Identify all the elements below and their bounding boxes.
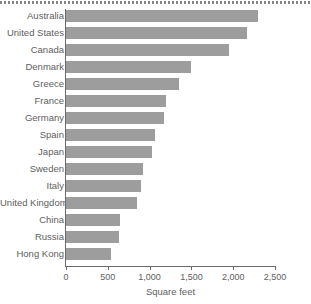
bar-row: Denmark (0, 60, 311, 77)
bar-row: France (0, 94, 311, 111)
x-axis-tick (108, 266, 109, 270)
x-axis-tick-label: 1,000 (138, 272, 161, 282)
bar (66, 180, 141, 192)
bar (66, 112, 164, 124)
bar (66, 61, 191, 73)
x-axis-tick-label: 1,500 (180, 272, 203, 282)
bar-track (66, 27, 247, 39)
bar-row: Canada (0, 43, 311, 60)
bar-track (66, 163, 143, 175)
x-axis-tick-label: 2,500 (264, 272, 287, 282)
bar-row: United States (0, 26, 311, 43)
bar-track (66, 146, 152, 158)
category-label: United States (0, 26, 64, 39)
bar-row: United Kingdom (0, 196, 311, 213)
x-axis-tick (191, 266, 192, 270)
bar-track (66, 180, 141, 192)
bar (66, 129, 155, 141)
bar-row: Germany (0, 111, 311, 128)
x-axis-tick (66, 266, 67, 270)
bar-row: Italy (0, 179, 311, 196)
bar-row: Japan (0, 145, 311, 162)
category-label: Australia (0, 9, 64, 22)
category-label: China (0, 213, 64, 226)
bar (66, 10, 258, 22)
bar-track (66, 248, 111, 260)
x-axis-tick (150, 266, 151, 270)
bar-row: China (0, 213, 311, 230)
bar (66, 146, 152, 158)
category-label: United Kingdom (0, 196, 64, 209)
x-axis-tick-label: 0 (63, 272, 68, 282)
bar-track (66, 95, 166, 107)
category-label: France (0, 94, 64, 107)
x-axis-tick-label: 2,000 (222, 272, 245, 282)
category-label: Japan (0, 145, 64, 158)
bar-row: Hong Kong (0, 247, 311, 264)
category-label: Italy (0, 179, 64, 192)
bar-track (66, 112, 164, 124)
bar-chart-figure: AustraliaUnited StatesCanadaDenmarkGreec… (0, 0, 311, 304)
category-label: Greece (0, 77, 64, 90)
category-label: Hong Kong (0, 247, 64, 260)
bar-row: Australia (0, 9, 311, 26)
bar-track (66, 44, 229, 56)
x-axis-tick (233, 266, 234, 270)
category-axis-line (65, 9, 66, 266)
bar (66, 248, 111, 260)
bar (66, 231, 119, 243)
category-label: Spain (0, 128, 64, 141)
bar-row: Spain (0, 128, 311, 145)
value-axis-line (65, 266, 275, 267)
bar (66, 78, 179, 90)
bar-track (66, 10, 258, 22)
top-divider-rule (0, 1, 311, 4)
bar (66, 27, 247, 39)
category-label: Canada (0, 43, 64, 56)
x-axis-tick (275, 266, 276, 270)
bar-track (66, 231, 119, 243)
bar-track (66, 214, 120, 226)
category-label: Denmark (0, 60, 64, 73)
bar (66, 163, 143, 175)
category-label: Sweden (0, 162, 64, 175)
category-label: Germany (0, 111, 64, 124)
x-axis-tick-label: 500 (100, 272, 115, 282)
bar-track (66, 129, 155, 141)
bar-track (66, 61, 191, 73)
bar (66, 95, 166, 107)
plot-area: AustraliaUnited StatesCanadaDenmarkGreec… (0, 9, 311, 267)
bar-row: Greece (0, 77, 311, 94)
bar-track (66, 197, 137, 209)
bar (66, 197, 137, 209)
bar-row: Russia (0, 230, 311, 247)
bar (66, 44, 229, 56)
bar-track (66, 78, 179, 90)
bar (66, 214, 120, 226)
x-axis-title: Square feet (66, 286, 275, 297)
bar-row: Sweden (0, 162, 311, 179)
category-label: Russia (0, 230, 64, 243)
